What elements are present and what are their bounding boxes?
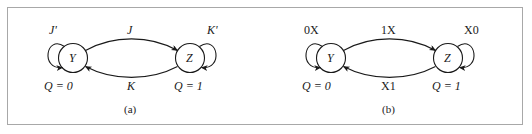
edge-left-to-right	[344, 39, 436, 51]
output-label-left: Q = 0	[44, 80, 73, 92]
transition-label-self-right: K'	[207, 24, 218, 36]
state-label-left: Y	[327, 52, 334, 64]
panel-b: Y Z 0X 1X X1 X0 Q = 0 Q = 1 (b)	[266, 8, 524, 126]
self-loop-left	[306, 44, 323, 68]
edge-right-to-left	[344, 67, 436, 78]
state-label-right: Z	[186, 52, 193, 64]
state-diagram-figure: Y Z J' J K K' Q = 0 Q = 1 (a)	[0, 0, 532, 134]
output-label-right: Q = 1	[174, 80, 203, 92]
figure-frame: Y Z J' J K K' Q = 0 Q = 1 (a)	[7, 7, 523, 125]
transition-label-self-left: 0X	[304, 24, 319, 36]
edge-right-to-left	[86, 67, 178, 78]
transition-label-left-to-right: 1X	[381, 24, 396, 36]
self-loop-left	[48, 44, 65, 68]
panel-caption-b: (b)	[382, 104, 395, 115]
self-loop-right	[200, 44, 217, 68]
panel-a-graphics	[8, 8, 266, 126]
output-label-left: Q = 0	[302, 80, 331, 92]
transition-label-left-to-right: J	[127, 24, 132, 36]
state-label-left: Y	[69, 52, 76, 64]
transition-label-self-left: J'	[49, 24, 57, 36]
transition-label-right-to-left: X1	[381, 80, 396, 92]
state-label-right: Z	[444, 52, 451, 64]
edge-left-to-right	[86, 39, 178, 51]
self-loop-right	[458, 44, 475, 68]
panel-caption-a: (a)	[124, 104, 136, 115]
panel-a: Y Z J' J K K' Q = 0 Q = 1 (a)	[8, 8, 266, 126]
transition-label-self-right: X0	[464, 24, 479, 36]
output-label-right: Q = 1	[432, 80, 461, 92]
transition-label-right-to-left: K	[127, 80, 135, 92]
